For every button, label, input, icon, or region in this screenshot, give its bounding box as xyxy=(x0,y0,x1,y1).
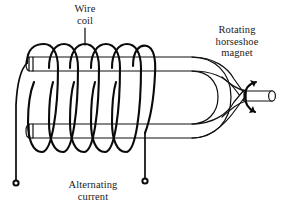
magnet-bend-inner xyxy=(192,71,218,124)
diagram-canvas: Wire coil Rotating horseshoe magnet Alte… xyxy=(0,0,283,212)
terminal-left xyxy=(13,180,18,185)
label-alternating-current: Alternating current xyxy=(43,179,143,202)
lead-wires xyxy=(16,63,145,180)
magnet-shaft-end-cap xyxy=(269,91,276,101)
lead-wire-left xyxy=(16,63,27,180)
label-wire-coil: Wire coil xyxy=(48,3,122,26)
terminal-right xyxy=(142,178,147,183)
label-rotating-horseshoe-magnet: Rotating horseshoe magnet xyxy=(196,24,278,59)
